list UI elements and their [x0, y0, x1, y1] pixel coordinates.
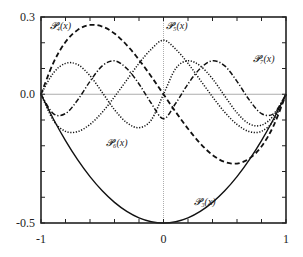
- x-tick-label: -1: [36, 232, 46, 246]
- reference-lines: [41, 17, 286, 223]
- y-tick-label: -0.5: [16, 216, 35, 230]
- y-tick-label: 0.0: [20, 87, 35, 101]
- curve-label: 𝓟₅(x): [166, 20, 188, 32]
- x-tick-label: 0: [161, 232, 167, 246]
- chart: -1010.30.0-0.5 𝓟₃(x)𝓟₄(x)𝓟₅(x)𝓟₆(x)𝓟₇(x): [0, 0, 303, 257]
- curve-label: 𝓟₇(x): [253, 53, 275, 65]
- curve-labels: 𝓟₃(x)𝓟₄(x)𝓟₅(x)𝓟₆(x)𝓟₇(x): [50, 20, 276, 208]
- y-tick-label: 0.3: [20, 10, 35, 24]
- curve-label: 𝓟₆(x): [106, 137, 128, 149]
- axis-tick-labels: -1010.30.0-0.5: [16, 10, 289, 246]
- curve-label: 𝓟₄(x): [50, 20, 72, 32]
- curve-label: 𝓟₃(x): [194, 196, 216, 208]
- x-tick-label: 1: [283, 232, 289, 246]
